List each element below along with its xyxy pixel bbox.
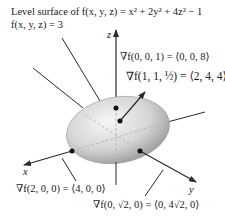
gradient-label-2-0-0: ∇f(2, 0, 0) = ⟨4, 0, 0⟩ xyxy=(16,183,106,195)
point-1-1-half xyxy=(118,119,123,124)
z-axis-label: z xyxy=(107,29,111,41)
gradient-label-0-0-1: ∇f(0, 0, 1) = ⟨0, 0, 8⟩ xyxy=(120,51,210,63)
leader-line-grad-200 xyxy=(62,158,76,181)
point-0-0-1 xyxy=(114,106,119,111)
gradient-label-1-1-half: ∇f(1, 1, ½) = ⟨2, 4, 4⟩ xyxy=(126,70,225,82)
point-0-root2-0 xyxy=(138,149,143,154)
title-line-1: Level surface of f(x, y, z) = x² + 2y² +… xyxy=(11,6,202,18)
leader-line-grad-0r20 xyxy=(145,170,163,196)
title-line-2: f(x, y, z) = 3 xyxy=(11,19,63,31)
y-axis xyxy=(140,151,196,182)
leader-line-f3 xyxy=(33,68,83,108)
point-2-0-0 xyxy=(70,149,75,154)
x-axis-label: x xyxy=(23,166,28,178)
ellipsoid-surface xyxy=(61,88,175,171)
leader-line-level-surface xyxy=(62,38,100,101)
y-axis-label: y xyxy=(189,184,194,196)
gradient-label-0-root2-0: ∇f(0, √2, 0) = ⟨0, 4√2, 0⟩ xyxy=(93,199,199,211)
